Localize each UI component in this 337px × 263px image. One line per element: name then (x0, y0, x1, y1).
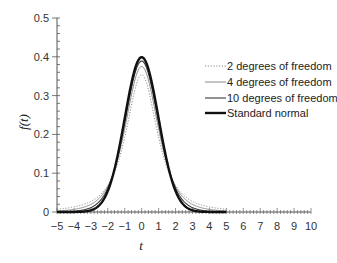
y-tick-label: 0.5 (34, 12, 49, 24)
y-tick-label: 0.4 (34, 51, 49, 63)
curve-2-degrees-of-freedom (57, 75, 226, 209)
x-tick-label: 3 (189, 220, 195, 232)
x-tick-label: 5 (223, 220, 229, 232)
y-tick-label: 0 (43, 206, 49, 218)
legend-label: 10 degrees of freedom (227, 92, 337, 104)
x-tick-label: −2 (102, 220, 115, 232)
x-tick-label: 7 (257, 220, 263, 232)
legend-label: 4 degrees of freedom (227, 76, 332, 88)
legend-label: 2 degrees of freedom (227, 60, 332, 72)
y-axis-title: f(t) (16, 114, 31, 130)
curve-4-degrees-of-freedom (57, 67, 226, 211)
y-tick-label: 0.1 (34, 167, 49, 179)
t-distribution-chart: 00.10.20.30.40.5 −5−4−3−2−1012345678910 … (0, 0, 337, 263)
x-axis: −5−4−3−2−1012345678910 (51, 208, 317, 232)
x-tick-label: 4 (206, 220, 212, 232)
y-tick-label: 0.3 (34, 90, 49, 102)
y-tick-label: 0.2 (34, 128, 49, 140)
x-tick-label: 8 (274, 220, 280, 232)
x-tick-label: 9 (291, 220, 297, 232)
x-tick-label: 2 (172, 220, 178, 232)
y-axis: 00.10.20.30.40.5 (34, 12, 60, 218)
x-axis-title: t (139, 238, 143, 253)
x-tick-label: 6 (240, 220, 246, 232)
x-tick-label: −4 (68, 220, 81, 232)
legend-label: Standard normal (227, 107, 308, 119)
x-tick-label: 1 (156, 220, 162, 232)
curve-10-degrees-of-freedom (57, 61, 226, 212)
legend: 2 degrees of freedom4 degrees of freedom… (205, 60, 337, 119)
x-tick-label: −3 (85, 220, 98, 232)
x-tick-label: −1 (118, 220, 131, 232)
x-tick-label: 0 (139, 220, 145, 232)
plot-curves (57, 57, 226, 212)
x-tick-label: 10 (305, 220, 317, 232)
x-tick-label: −5 (51, 220, 64, 232)
curve-standard-normal (57, 57, 226, 212)
